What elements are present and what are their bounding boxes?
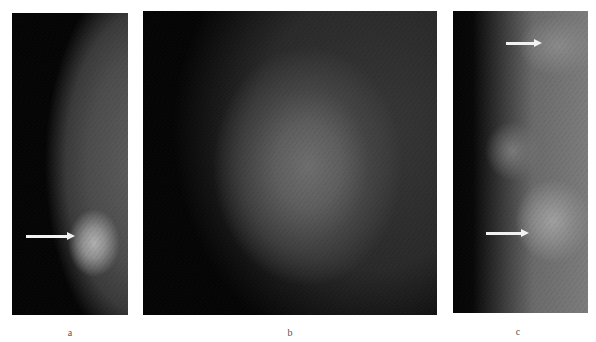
panel-label-b: b — [280, 327, 300, 338]
arrow-icon — [506, 42, 535, 45]
texture-c — [453, 11, 588, 313]
mammogram-panel-c — [453, 11, 588, 313]
panel-label-c: c — [508, 326, 528, 337]
mammogram-panel-a — [12, 13, 128, 315]
arrow-icon — [486, 232, 522, 235]
texture-b — [143, 11, 437, 315]
mammogram-panel-b — [143, 11, 437, 315]
texture-a — [12, 13, 128, 315]
arrow-icon — [26, 235, 68, 238]
panel-label-a: a — [60, 327, 80, 338]
